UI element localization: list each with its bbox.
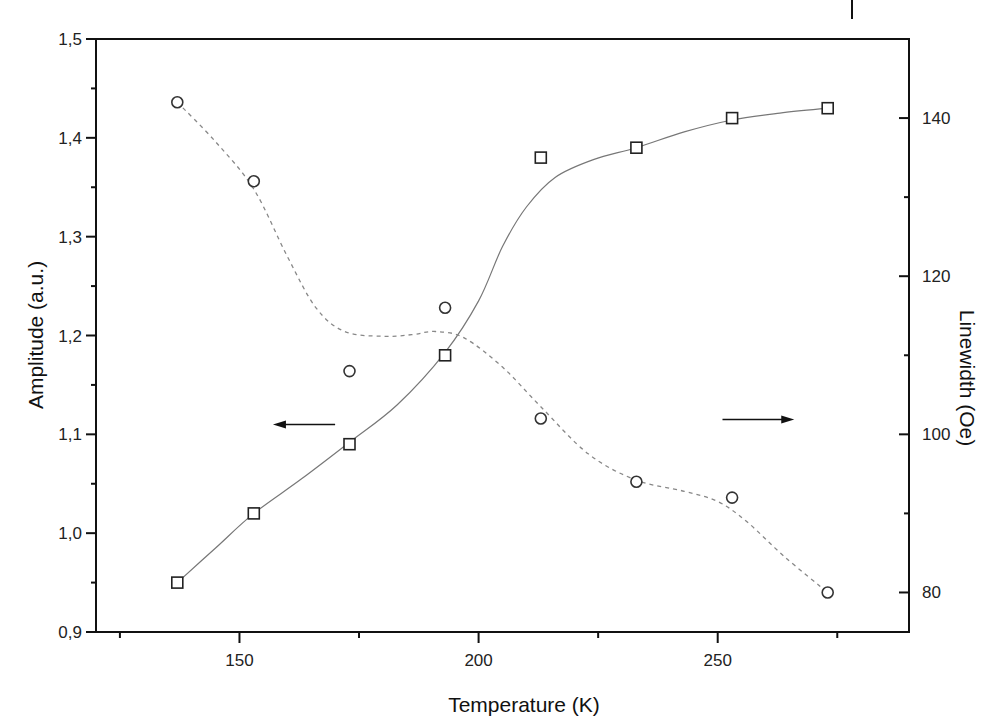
axes: 150200250 0,91,01,11,21,31,41,5 80100120… xyxy=(58,30,950,670)
y-axis-ticks: 0,91,01,11,21,31,41,5 xyxy=(58,30,96,642)
x-axis-title: Temperature (K) xyxy=(448,693,600,716)
y-tick-label: 1,2 xyxy=(58,327,82,346)
y2-axis-title: Linewidth (Oe) xyxy=(956,310,979,447)
y2-tick-label: 120 xyxy=(922,267,950,286)
amplitude-data-point xyxy=(535,152,546,163)
arrow-left-icon xyxy=(273,420,286,428)
amplitude-data-point xyxy=(440,350,451,361)
amplitude-data-point xyxy=(727,113,738,124)
axis-arrows xyxy=(273,416,794,429)
x-tick-label: 150 xyxy=(225,651,253,670)
linewidth-data-point xyxy=(248,176,259,187)
amplitude-data-point xyxy=(822,103,833,114)
amplitude-data-point xyxy=(172,577,183,588)
x-tick-label: 200 xyxy=(464,651,492,670)
y-tick-label: 0,9 xyxy=(58,623,82,642)
y-axis-title: Amplitude (a.u.) xyxy=(24,261,47,409)
linewidth-data-point xyxy=(727,492,738,503)
amplitude-markers xyxy=(172,103,833,588)
y-tick-label: 1,4 xyxy=(58,129,82,148)
arrow-right-icon xyxy=(781,416,794,424)
y-tick-label: 1,0 xyxy=(58,524,82,543)
linewidth-fit-curve xyxy=(177,102,827,592)
amplitude-data-point xyxy=(631,142,642,153)
y2-tick-label: 140 xyxy=(922,109,950,128)
y2-tick-label: 100 xyxy=(922,425,950,444)
linewidth-data-point xyxy=(822,587,833,598)
y-tick-label: 1,1 xyxy=(58,425,82,444)
fit-curves xyxy=(177,102,827,592)
linewidth-data-point xyxy=(172,97,183,108)
amplitude-data-point xyxy=(344,439,355,450)
plot-area xyxy=(172,97,833,598)
plot-frame xyxy=(96,39,909,632)
linewidth-data-point xyxy=(535,413,546,424)
x-axis-ticks: 150200250 xyxy=(120,632,837,670)
linewidth-data-point xyxy=(440,302,451,313)
amplitude-fit-curve xyxy=(177,108,827,582)
amplitude-data-point xyxy=(248,508,259,519)
y2-axis-ticks: 80100120140 xyxy=(899,109,950,602)
chart: 150200250 0,91,01,11,21,31,41,5 80100120… xyxy=(0,0,992,727)
linewidth-markers xyxy=(172,97,833,598)
y-tick-label: 1,3 xyxy=(58,228,82,247)
linewidth-data-point xyxy=(631,476,642,487)
x-tick-label: 250 xyxy=(704,651,732,670)
linewidth-data-point xyxy=(344,366,355,377)
y2-tick-label: 80 xyxy=(922,583,941,602)
y-tick-label: 1,5 xyxy=(58,30,82,49)
